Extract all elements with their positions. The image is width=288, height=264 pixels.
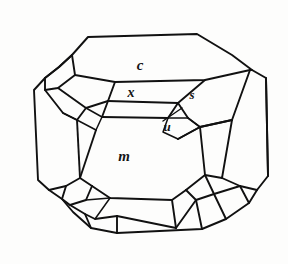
face-c-lower-boundary xyxy=(45,55,72,78)
face-label-x: x xyxy=(127,85,135,100)
face-left-side-fill xyxy=(34,78,80,190)
bottom-band-right-edge xyxy=(172,200,176,228)
face-label-s: s xyxy=(188,87,194,102)
ul-facet-edge-3 xyxy=(58,88,108,108)
bottom-edge-band xyxy=(117,200,176,228)
br-facet-edge-6 xyxy=(196,200,202,229)
face-x-lower-edge xyxy=(102,117,168,118)
br-facet-edge-3 xyxy=(214,194,226,219)
bl-facet-edge-5 xyxy=(85,214,117,219)
ul-facet-edge-5 xyxy=(77,108,86,120)
face-label-m: m xyxy=(118,148,130,164)
face-label-c: c xyxy=(137,57,144,73)
face-top-c-fill xyxy=(72,34,250,82)
bl-facet-edge-2 xyxy=(62,186,91,228)
br-facet-edge-4 xyxy=(214,186,249,203)
bottom-band-edge xyxy=(117,216,176,228)
crystal-diagram-svg: c x s u m xyxy=(0,0,288,264)
bl-facet-edge-6 xyxy=(95,198,110,219)
bl-facet-edge-4 xyxy=(86,198,110,200)
crystal-habit-figure: c x s u m xyxy=(0,0,288,264)
ul-facet-edge-2 xyxy=(45,75,75,90)
bl-facet-edge-3 xyxy=(70,186,92,205)
ul-facet-edge-4 xyxy=(108,82,115,101)
face-label-u: u xyxy=(163,119,170,134)
